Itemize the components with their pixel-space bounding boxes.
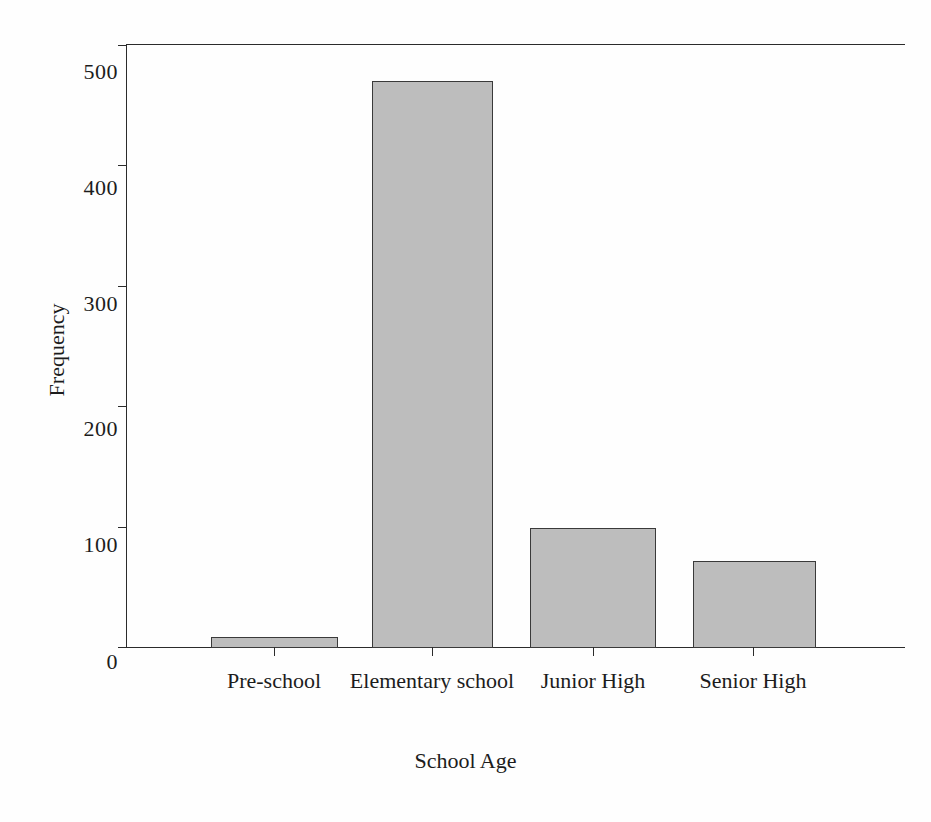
x-axis-tick-pre-school <box>274 647 275 656</box>
x-axis-title: School Age <box>0 748 931 774</box>
y-axis-tick-label-400: 400 <box>73 177 118 199</box>
plot-frame-top-line <box>126 44 905 45</box>
y-axis-tick-label-200: 200 <box>73 418 118 440</box>
y-axis-tick-label-0: 0 <box>96 651 118 673</box>
bar-senior-high <box>693 561 816 648</box>
x-axis-tick-senior-high <box>753 647 754 656</box>
y-axis-tick-300 <box>118 286 127 287</box>
x-axis-label-senior-high: Senior High <box>653 668 853 694</box>
y-axis-title: Frequency <box>44 304 70 397</box>
y-axis-tick-500 <box>118 45 127 46</box>
y-axis-line <box>126 44 127 647</box>
y-axis-tick-label-500: 500 <box>73 61 118 83</box>
y-axis-tick-label-100: 100 <box>73 534 118 556</box>
bar-junior-high <box>530 528 656 648</box>
x-axis-tick-junior-high <box>593 647 594 656</box>
y-axis-tick-0 <box>118 647 127 648</box>
x-axis-tick-elementary-school <box>432 647 433 656</box>
y-axis-tick-400 <box>118 165 127 166</box>
y-axis-tick-100 <box>118 527 127 528</box>
bar-elementary-school <box>372 81 493 648</box>
y-axis-tick-200 <box>118 406 127 407</box>
y-axis-tick-label-300: 300 <box>73 293 118 315</box>
bar-chart: 0 100 200 300 400 500 Pre-school Element… <box>0 0 931 822</box>
